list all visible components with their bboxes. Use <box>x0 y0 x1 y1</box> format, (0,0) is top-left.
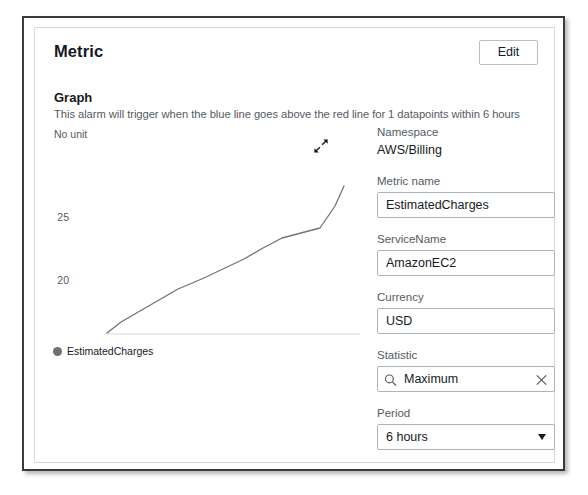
namespace-value: AWS/Billing <box>377 143 557 157</box>
statistic-input-shell <box>377 366 555 392</box>
xtick-label-1211: 12/11 <box>117 340 143 341</box>
legend-label: EstimatedCharges <box>67 345 153 357</box>
search-icon[interactable] <box>384 373 397 386</box>
xtick-label-1214: 12/14 <box>230 340 256 341</box>
statistic-label: Statistic <box>377 349 557 361</box>
metric-card: Metric Edit Graph This alarm will trigge… <box>34 27 555 463</box>
service-name-input[interactable] <box>377 250 555 276</box>
statistic-input[interactable] <box>377 366 555 392</box>
period-label: Period <box>377 407 557 419</box>
series-line-estimatedcharges <box>107 186 344 333</box>
legend-swatch-icon <box>53 347 62 356</box>
field-period: Period <box>377 407 557 450</box>
xtick-label-1217: 12/17 <box>332 340 358 341</box>
metric-details-form: Namespace AWS/Billing Metric name Servic… <box>377 126 557 465</box>
page-title: Metric <box>54 42 103 61</box>
ytick-label-25: 25 <box>57 211 69 223</box>
xtick-label-1213: 12/13 <box>192 340 218 341</box>
metric-chart: No unit 25 20 <box>45 126 370 361</box>
namespace-label: Namespace <box>377 126 557 138</box>
graph-description: This alarm will trigger when the blue li… <box>54 108 520 120</box>
field-namespace: Namespace AWS/Billing <box>377 126 557 157</box>
field-currency: Currency <box>377 291 557 334</box>
chart-legend[interactable]: EstimatedCharges <box>53 345 153 357</box>
graph-heading: Graph <box>54 90 92 105</box>
chevron-down-icon[interactable] <box>538 434 546 440</box>
xtick-label-1212: 12/12 <box>155 340 181 341</box>
xtick-label-1216: 12/16 <box>305 340 331 341</box>
field-metric-name: Metric name <box>377 175 557 218</box>
window-frame: Metric Edit Graph This alarm will trigge… <box>22 16 565 471</box>
chart-plot: 25 20 12/11 12/12 12/13 12/14 12/15 12/1… <box>45 126 370 341</box>
screenshot-root: Metric Edit Graph This alarm will trigge… <box>0 0 588 495</box>
xtick-label-1215: 12/15 <box>267 340 293 341</box>
period-select-shell[interactable] <box>377 424 555 450</box>
ytick-label-20: 20 <box>57 274 69 286</box>
metric-name-input[interactable] <box>377 192 555 218</box>
currency-input[interactable] <box>377 308 555 334</box>
edit-button[interactable]: Edit <box>479 40 538 65</box>
field-service-name: ServiceName <box>377 233 557 276</box>
currency-label: Currency <box>377 291 557 303</box>
close-icon[interactable] <box>535 373 548 386</box>
field-statistic: Statistic <box>377 349 557 392</box>
card-header: Metric Edit <box>35 28 554 76</box>
period-select[interactable] <box>377 424 555 450</box>
metric-name-label: Metric name <box>377 175 557 187</box>
service-name-label: ServiceName <box>377 233 557 245</box>
